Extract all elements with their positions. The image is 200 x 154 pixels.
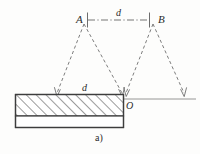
ray-b-right <box>153 24 184 93</box>
ray-a-right <box>84 24 122 93</box>
hatched-slab <box>15 94 124 128</box>
rays-from-a <box>57 24 122 93</box>
diagram-canvas <box>0 0 200 154</box>
slab-lower-band <box>16 116 124 128</box>
label-point-a: A <box>76 14 83 25</box>
label-point-o: O <box>126 101 133 111</box>
slab-hatched-band <box>16 95 124 117</box>
label-dimension-d-top: d <box>116 8 121 18</box>
figure-caption: a) <box>95 133 103 143</box>
ray-b-arrowheads <box>124 87 187 96</box>
ray-b-left <box>126 24 153 93</box>
ray-a-left <box>57 24 84 93</box>
rays-from-b <box>126 24 184 93</box>
figure-container: A B d d O a) <box>0 0 200 154</box>
arrowhead-b-right <box>181 87 187 96</box>
label-dimension-d-slab: d <box>82 83 87 93</box>
label-point-b: B <box>158 14 165 25</box>
